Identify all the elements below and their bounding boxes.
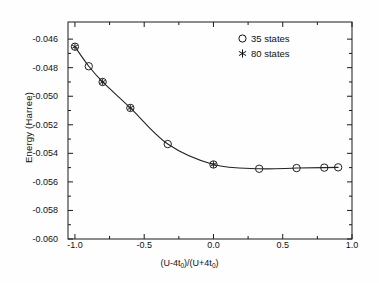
- x-tick-label: -1.0: [67, 240, 83, 250]
- energy-vs-hubbard-ratio-chart: -0.046-0.048-0.050-0.052-0.054-0.056-0.0…: [0, 0, 379, 283]
- circle-marker-icon: [236, 32, 249, 45]
- y-tick-label: -0.052: [12, 120, 58, 130]
- x-tick-label: 1.0: [346, 240, 359, 250]
- x-tick-label: 0.5: [276, 240, 289, 250]
- y-tick-label: -0.046: [12, 34, 58, 44]
- x-tick-labels: -1.0-0.50.00.51.0: [0, 240, 379, 256]
- axes-frame: [68, 22, 352, 239]
- legend-label-35-states: 35 states: [251, 33, 290, 44]
- y-tick-label: -0.054: [12, 148, 58, 158]
- y-tick-label: -0.048: [12, 63, 58, 73]
- legend-item-35-states: 35 states: [236, 31, 290, 45]
- x-tick-label: -0.5: [136, 240, 152, 250]
- x-axis-label-pre: (U-4t: [160, 258, 180, 268]
- x-tick-label: 0.0: [207, 240, 220, 250]
- legend-label-80-states: 80 states: [251, 48, 290, 59]
- x-axis-label-mid: )/(U+4t: [184, 258, 212, 268]
- axis-ticks: [68, 22, 352, 239]
- asterisk-marker-icon: [236, 47, 249, 60]
- chart-legend: 35 states 80 states: [236, 31, 290, 61]
- y-tick-label: -0.056: [12, 177, 58, 187]
- y-tick-label: -0.050: [12, 91, 58, 101]
- data-series-group: [71, 43, 342, 172]
- y-axis-label: Energy (Harree): [23, 53, 34, 203]
- y-tick-label: -0.058: [12, 205, 58, 215]
- x-axis-label: (U-4t0)/(U+4t0): [0, 258, 379, 269]
- x-axis-label-post: ): [216, 258, 219, 268]
- legend-item-80-states: 80 states: [236, 46, 290, 60]
